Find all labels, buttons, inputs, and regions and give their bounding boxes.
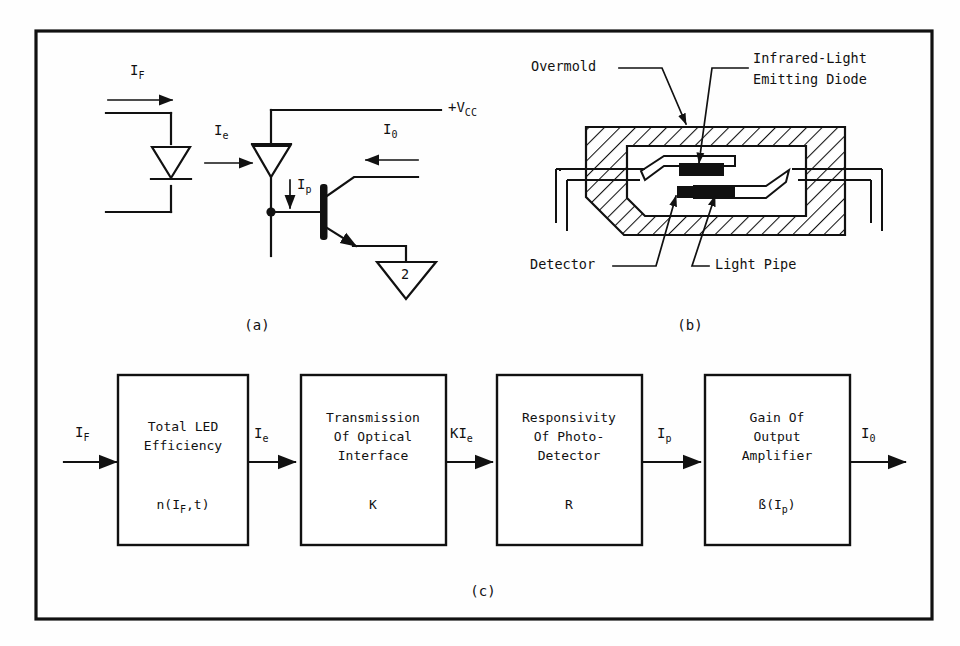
transistor-base-bar bbox=[320, 184, 328, 240]
caption-panel-b: (b) bbox=[677, 317, 702, 333]
infrared-led-die bbox=[679, 163, 724, 176]
block2-line3: Interface bbox=[338, 448, 409, 463]
block3-symbol: R bbox=[565, 497, 573, 512]
panel-a-schematic: IF Ie +VCC bbox=[106, 62, 477, 333]
label-infrared-led-line2: Emitting Diode bbox=[753, 71, 867, 87]
wire-emitter-to-ground bbox=[353, 246, 406, 262]
block1-line1: Total LED bbox=[148, 419, 219, 434]
block2-symbol: K bbox=[369, 497, 377, 512]
label-connector-ie: Ie bbox=[254, 425, 268, 444]
block4-line2: Output bbox=[754, 429, 801, 444]
wire-transistor-collector bbox=[327, 177, 418, 196]
figure-root: IF Ie +VCC bbox=[0, 0, 960, 646]
label-vcc: +VCC bbox=[448, 99, 477, 118]
panel-c-block-diagram: IF Total LED Efficiency n(IF,t) Ie Trans… bbox=[64, 375, 905, 599]
caption-panel-a: (a) bbox=[244, 317, 269, 333]
label-connector-ip: Ip bbox=[657, 425, 671, 444]
block4-line1: Gain Of bbox=[750, 410, 805, 425]
label-detector: Detector bbox=[530, 256, 595, 272]
label-overmold: Overmold bbox=[531, 58, 596, 74]
figure-canvas: IF Ie +VCC bbox=[0, 0, 960, 646]
block-total-led-efficiency[interactable] bbox=[118, 375, 248, 545]
block3-line2: Of Photo- bbox=[534, 429, 604, 444]
block2-line2: Of Optical bbox=[334, 429, 412, 444]
label-if: IF bbox=[130, 62, 144, 81]
leader-overmold bbox=[619, 68, 686, 124]
label-ie: Ie bbox=[214, 122, 228, 141]
label-infrared-led-line1: Infrared-Light bbox=[753, 50, 867, 66]
detector-die bbox=[677, 186, 735, 198]
panel-b-package: Overmold Infrared-Light Emitting Diode D… bbox=[530, 50, 882, 333]
caption-panel-c: (c) bbox=[470, 583, 495, 599]
label-light-pipe: Light Pipe bbox=[715, 256, 796, 272]
label-block-io: I0 bbox=[861, 425, 875, 444]
wire-transistor-emitter bbox=[327, 228, 356, 246]
label-io: I0 bbox=[383, 121, 397, 140]
led-diode-symbol bbox=[152, 147, 190, 178]
block2-line1: Transmission bbox=[326, 410, 420, 425]
block4-line3: Amplifier bbox=[742, 448, 813, 463]
label-ip: Ip bbox=[297, 176, 311, 195]
label-block-if: IF bbox=[75, 424, 89, 443]
block3-line3: Detector bbox=[538, 448, 601, 463]
block3-line1: Responsivity bbox=[522, 410, 616, 425]
block1-line2: Efficiency bbox=[144, 438, 222, 453]
photodiode-symbol bbox=[253, 146, 290, 177]
ground-symbol-label: 2 bbox=[401, 266, 409, 282]
label-connector-kie: KIe bbox=[450, 425, 473, 444]
